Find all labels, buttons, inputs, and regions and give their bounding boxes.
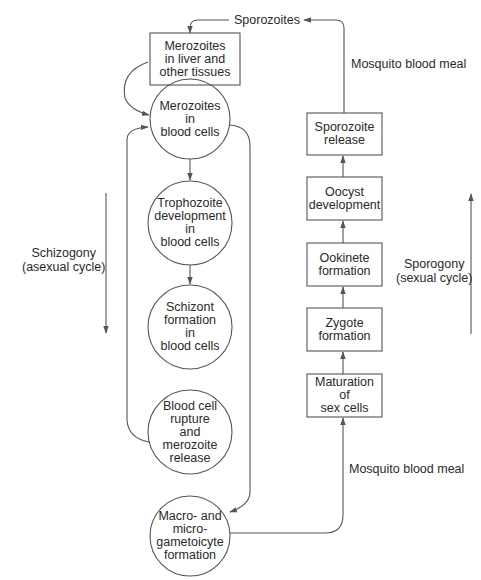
sporogony-line1: Sporogony (396, 257, 472, 271)
text-line: formation (318, 330, 370, 343)
node-merozoites-blood-text: Merozoites in blood cells (150, 79, 230, 159)
node-trophozoite-text: Trophozoite development in blood cells (148, 181, 232, 265)
arrow-rupture-to-merozoites (127, 127, 149, 442)
text-line: Ookinete (319, 252, 369, 265)
text-line: blood cells (160, 340, 219, 353)
text-line: blood cells (160, 236, 219, 249)
text-line: and (180, 426, 201, 439)
text-line: rupture (170, 413, 210, 426)
node-zygote-text: Zygote formation (307, 308, 382, 351)
text-line: in liver and (165, 53, 225, 66)
text-line: Merozoites (159, 100, 220, 113)
arrow-merozoites-to-gametocyte (229, 125, 250, 512)
arrow-gametocyte-to-maturation (230, 418, 343, 533)
mosquito-blood-meal-bottom-label: Mosquito blood meal (349, 462, 464, 476)
text-line: Zygote (325, 317, 363, 330)
node-maturation-text: Maturation of sex cells (307, 374, 382, 417)
text-line: Merozoites (164, 40, 225, 53)
node-oocyst-text: Oocyst development (307, 177, 382, 220)
text-line: release (170, 452, 211, 465)
text-line: development (309, 199, 381, 212)
arrow-sporozoite-release-to-sporozoites (304, 20, 344, 113)
mosquito-blood-meal-top-label: Mosquito blood meal (351, 57, 466, 71)
node-merozoites-liver-text: Merozoites in liver and other tissues (150, 33, 240, 85)
text-line: formation (164, 549, 216, 562)
text-line: Blood cell (163, 400, 217, 413)
text-line: in (185, 113, 195, 126)
arrow-sporozoites-to-liver (190, 20, 229, 33)
node-sporozoite-release-text: Sporozoite release (307, 113, 382, 155)
node-ookinete-text: Ookinete formation (307, 243, 382, 286)
schizogony-line1: Schizogony (22, 246, 105, 260)
text-line: other tissues (160, 66, 231, 79)
node-schizont-text: Schizont formation in blood cells (148, 285, 232, 369)
text-line: formation (318, 265, 370, 278)
arrow-liver-to-blood (124, 62, 149, 115)
sporogony-line2: (sexual cycle) (396, 271, 472, 285)
sporozoites-label: Sporozoites (234, 13, 300, 27)
text-line: release (324, 134, 365, 147)
text-line: Oocyst (325, 186, 364, 199)
node-gametocyte-text: Macro- and micro- gametoicyte formation (150, 496, 230, 576)
life-cycle-diagram (0, 0, 481, 580)
node-rupture-text: Blood cell rupture and merozoite release (148, 390, 232, 474)
sporogony-label: Sporogony (sexual cycle) (396, 257, 472, 285)
schizogony-line2: (asexual cycle) (22, 260, 105, 274)
text-line: blood cells (160, 126, 219, 139)
text-line: merozoite (163, 439, 218, 452)
schizogony-label: Schizogony (asexual cycle) (22, 246, 105, 274)
text-line: sex cells (321, 402, 369, 415)
